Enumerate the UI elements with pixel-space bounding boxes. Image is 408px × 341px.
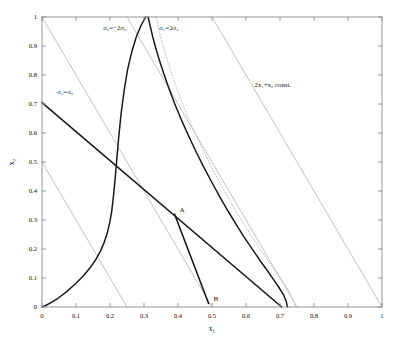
xtick-label: 0.7 (276, 312, 285, 319)
curve-- (42, 103, 282, 307)
ytick-label: 0.7 (29, 100, 38, 107)
ytick-label: 1 (34, 13, 37, 20)
annotation-2: σ₂=σ₀ (57, 88, 74, 95)
ytick-label: 0.6 (29, 129, 38, 136)
point-label-b: B (214, 295, 219, 303)
curve-feasible-boundary-ab (175, 214, 209, 303)
annotation-0: σ₃=−2σ₀ (103, 24, 127, 31)
xtick-label: 0.9 (344, 312, 353, 319)
ytick-label: 0.5 (29, 158, 38, 165)
xtick-label: 0.2 (106, 312, 114, 319)
ytick-label: 0.9 (29, 42, 38, 49)
ytick-label: 0 (34, 303, 38, 310)
xtick-label: 0.3 (140, 312, 149, 319)
family-line-2 (127, 17, 297, 307)
ytick-label: 0.1 (29, 274, 37, 281)
ytick-label: 0.4 (29, 187, 38, 194)
curve--2-dotted (156, 17, 295, 307)
point-label-a: A (180, 206, 185, 214)
xtick-label: 0.8 (310, 312, 319, 319)
xtick-label: 0.1 (72, 312, 80, 319)
annotation-3: 2x₁+x₂ const. (255, 81, 292, 88)
xtick-label: 0 (40, 312, 44, 319)
figure-canvas: 00.10.20.30.40.50.60.70.80.9100.10.20.30… (0, 0, 408, 341)
y-axis-label: x₂ (7, 158, 16, 165)
family-line-3 (212, 17, 382, 307)
xtick-label: 0.6 (242, 312, 251, 319)
family-line-1 (42, 17, 212, 307)
curve--2- (42, 17, 146, 307)
xtick-label: 0.5 (208, 312, 217, 319)
ytick-label: 0.2 (29, 245, 37, 252)
ytick-label: 0.8 (29, 71, 38, 78)
annotation-1: σ₁=2σ₀ (159, 24, 179, 31)
x-axis-label: x₁ (209, 324, 216, 333)
xtick-label: 1 (380, 312, 383, 319)
curve--2- (148, 17, 287, 307)
xtick-label: 0.4 (174, 312, 183, 319)
ytick-label: 0.3 (29, 216, 38, 223)
plot-svg: 00.10.20.30.40.50.60.70.80.9100.10.20.30… (0, 0, 408, 341)
